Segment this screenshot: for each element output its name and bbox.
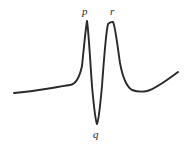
peak-label-r: r [110,6,114,17]
peak-label-p: p [82,6,88,17]
spectrum-figure: p r q [0,0,189,150]
trough-label-q: q [93,129,99,140]
